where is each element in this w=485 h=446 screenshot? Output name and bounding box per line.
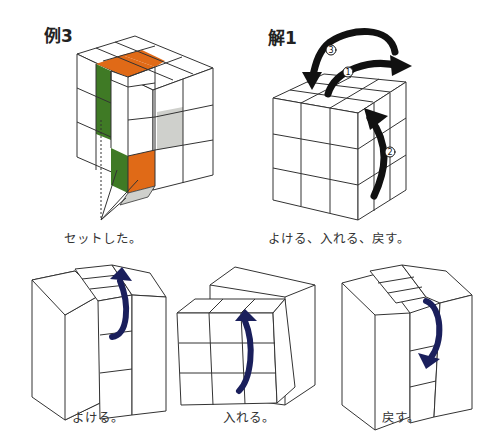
step-3-label: 3 [328, 46, 333, 55]
example-panel: 例3 [0, 0, 240, 250]
solution-cube-diagram: 1 3 2 [240, 0, 485, 250]
solution-panel: 解1 [240, 0, 485, 250]
example-cube-diagram [0, 0, 240, 250]
step-yokeru-caption: よける。 [72, 407, 124, 426]
step-panel-modosu: 戻す。 [330, 255, 470, 445]
step-2-label: 2 [387, 148, 392, 157]
step-modosu-caption: 戻す。 [382, 407, 420, 426]
step-panel-ireru: 入れる。 [165, 255, 325, 445]
step-panel-yokeru: よける。 [20, 255, 160, 445]
solution-caption: よける、入れる、戻す。 [268, 228, 410, 247]
step-ireru-caption: 入れる。 [223, 407, 275, 426]
step-1-label: 1 [345, 68, 350, 77]
example-caption: セットした。 [64, 228, 142, 247]
